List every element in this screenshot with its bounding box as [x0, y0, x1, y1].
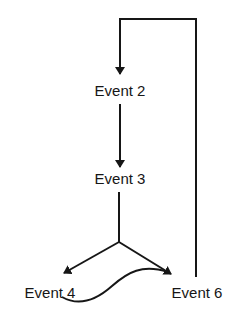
curved-arrow-event4-to-event6 — [62, 269, 168, 302]
flow-diagram: Event 2 Event 3 Event 4 Event 6 — [0, 0, 244, 319]
node-event-6: Event 6 — [172, 284, 223, 301]
node-event-2: Event 2 — [95, 82, 146, 99]
arrow-event3-to-event4 — [64, 242, 119, 273]
node-event-4: Event 4 — [25, 284, 76, 301]
node-event-3: Event 3 — [95, 170, 146, 187]
loop-back-arrow — [120, 19, 196, 277]
